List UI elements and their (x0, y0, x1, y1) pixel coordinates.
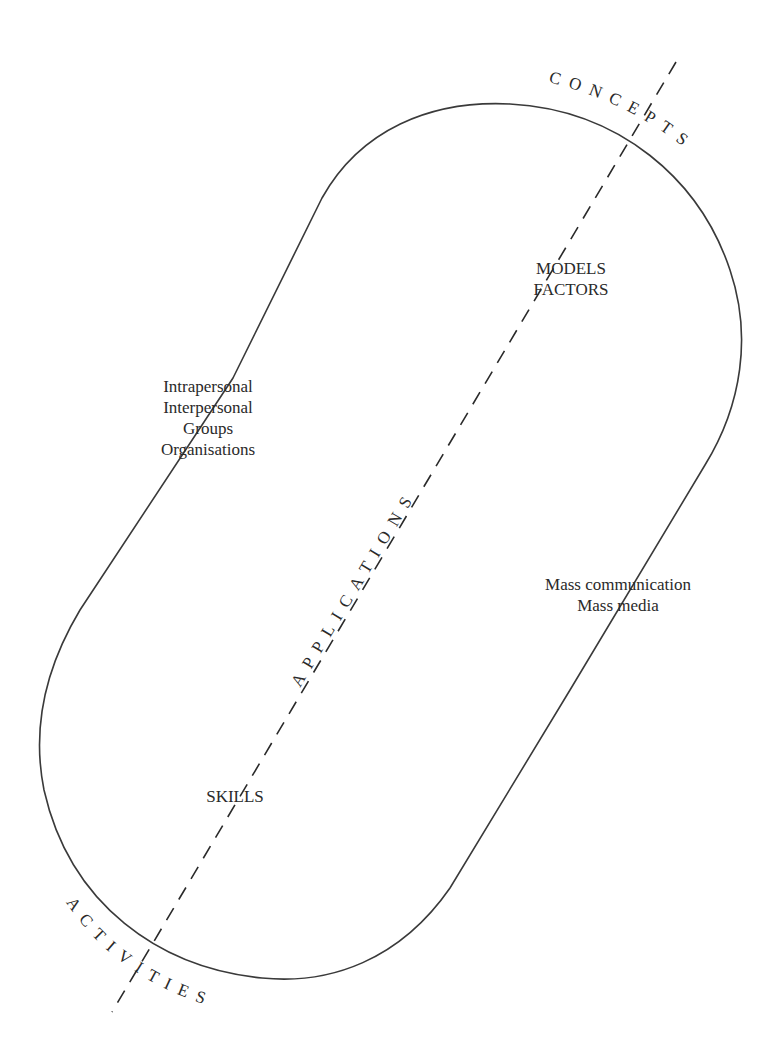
groups-text: Groups (128, 418, 288, 439)
intrapersonal-text: Intrapersonal (128, 376, 288, 397)
factors-text: FACTORS (506, 279, 636, 300)
applications-label: APPLICATIONS (287, 486, 420, 690)
communication-levels-label: Intrapersonal Interpersonal Groups Organ… (128, 376, 288, 460)
models-factors-label: MODELS FACTORS (506, 258, 636, 300)
concepts-label: CONCEPTS (547, 67, 699, 154)
models-text: MODELS (506, 258, 636, 279)
mass-communication-text: Mass communication (518, 574, 718, 595)
mass-communication-label: Mass communication Mass media (518, 574, 718, 616)
activities-label: ACTIVITIES (63, 893, 217, 1010)
skills-text: SKILLS (190, 786, 280, 807)
mass-media-text: Mass media (518, 595, 718, 616)
organisations-text: Organisations (128, 439, 288, 460)
communication-diagram: CONCEPTS ACTIVITIES APPLICATIONS (0, 0, 775, 1062)
interpersonal-text: Interpersonal (128, 397, 288, 418)
skills-label: SKILLS (190, 786, 280, 807)
